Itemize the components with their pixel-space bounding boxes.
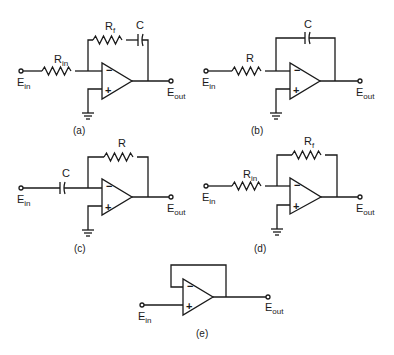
eout-label: Eout <box>167 86 186 101</box>
c-label: C <box>304 18 312 30</box>
circuit-a: − + Rin Rf C Ein Eout (a) <box>17 19 186 136</box>
caption-b: (b) <box>251 125 263 136</box>
rin-label: Rin <box>243 168 257 183</box>
eout-label: Eout <box>167 202 186 217</box>
resistor-icon <box>104 153 133 161</box>
eout-label: Eout <box>265 301 284 316</box>
output-terminal-icon <box>266 295 270 299</box>
ground-icon <box>271 229 283 235</box>
circuit-b: − + R C Ein Eout (b) <box>202 18 375 136</box>
output-terminal-icon <box>358 79 362 83</box>
noninverting-sign: + <box>105 201 111 213</box>
r-label: R <box>246 52 254 64</box>
noninverting-sign: + <box>105 84 111 96</box>
inverting-sign: − <box>294 179 300 191</box>
ground-icon <box>82 230 94 236</box>
output-terminal-icon <box>169 195 173 199</box>
op-amp-circuits-diagram: − + Rin Rf C Ein Eout (a) − + R C Ein <box>0 0 394 355</box>
input-terminal-icon <box>19 186 23 190</box>
noninverting-sign: + <box>293 84 299 96</box>
rf-label: Rf <box>105 20 116 35</box>
eout-label: Eout <box>356 202 375 217</box>
c-label: C <box>136 19 144 31</box>
noninverting-sign: + <box>293 200 299 212</box>
rf-label: Rf <box>304 135 315 150</box>
inverting-sign: − <box>187 280 193 292</box>
ein-label: Ein <box>17 193 31 208</box>
resistor-icon <box>93 36 122 44</box>
caption-c: (c) <box>74 243 86 254</box>
input-terminal-icon <box>140 303 144 307</box>
caption-e: (e) <box>196 328 208 339</box>
inverting-sign: − <box>106 64 112 76</box>
input-terminal-icon <box>204 184 208 188</box>
ground-icon <box>270 113 282 119</box>
inverting-sign: − <box>294 64 300 76</box>
circuit-d: − + Rin Rf Ein Eout (d) <box>202 135 375 254</box>
r-label: R <box>118 137 126 149</box>
ein-label: Ein <box>17 76 31 91</box>
output-terminal-icon <box>169 79 173 83</box>
circuit-e: − + Ein Eout (e) <box>138 265 284 339</box>
ground-icon <box>82 113 94 119</box>
c-label: C <box>62 167 70 179</box>
ein-label: Ein <box>202 76 216 91</box>
inverting-sign: − <box>106 180 112 192</box>
ein-label: Ein <box>202 191 216 206</box>
resistor-icon <box>232 67 261 75</box>
ein-label: Ein <box>138 310 152 325</box>
input-terminal-icon <box>204 69 208 73</box>
caption-a: (a) <box>73 125 85 136</box>
circuit-c: − + C R Ein Eout (c) <box>17 137 186 254</box>
input-terminal-icon <box>19 69 23 73</box>
rin-label: Rin <box>54 53 68 68</box>
noninverting-sign: + <box>186 300 192 312</box>
caption-d: (d) <box>254 243 266 254</box>
eout-label: Eout <box>356 86 375 101</box>
output-terminal-icon <box>358 195 362 199</box>
resistor-icon <box>232 182 261 190</box>
resistor-icon <box>292 151 321 159</box>
resistor-icon <box>42 67 71 75</box>
